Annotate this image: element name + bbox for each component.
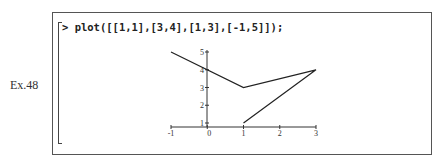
y-tick-label: 3 [200,84,204,93]
x-tick-label: 3 [314,129,318,138]
x-tick-label: 0 [207,129,211,138]
x-tick-label: 2 [278,129,282,138]
plot-output: -10123 12345 [0,0,446,164]
y-tick-label: 1 [200,119,204,128]
y-tick-labels: 12345 [200,48,209,128]
plot-curve [171,52,316,123]
y-tick-label: 2 [200,101,204,110]
y-tick-label: 5 [200,48,204,57]
x-tick-label: -1 [168,129,175,138]
x-tick-label: 1 [242,129,246,138]
